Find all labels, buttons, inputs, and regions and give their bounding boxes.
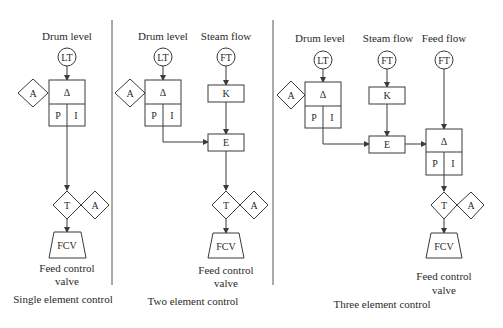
drum-level-label: Drum level [42,30,92,42]
level-controller: Δ P I [305,82,341,128]
proportional-label: P [151,110,157,121]
svg-text:T: T [223,200,229,211]
svg-text:A: A [250,200,258,211]
panel-caption: Two element control [148,295,239,307]
svg-text:LT: LT [157,52,168,63]
level-controller: Δ P I [145,80,181,126]
feed-flow-label: Feed flow [422,32,466,44]
panel-caption: Single element control [13,293,113,305]
svg-text:FT: FT [381,55,393,66]
delta-symbol: Δ [160,87,167,98]
valve-caption-2: valve [432,284,456,296]
valve-caption: Feed control [416,270,471,282]
svg-text:FCV: FCV [216,241,236,252]
proportional-label: P [55,110,61,121]
transfer-auto-diamond: A [457,192,484,219]
delta-symbol: Δ [320,89,327,100]
integral-label: I [330,112,333,123]
svg-text:FT: FT [438,55,450,66]
transfer-diamond: T [53,191,81,219]
steam-flow-label: Steam flow [201,30,251,42]
transfer-auto-diamond: A [81,191,109,219]
feed-control-valve: FCV [426,233,462,258]
drum-level-label: Drum level [138,30,188,42]
transfer-auto-diamond: A [240,191,268,219]
valve-caption-2: valve [55,275,79,287]
feed-flow-transmitter: FT [435,51,453,69]
svg-text:K: K [383,90,391,101]
level-controller: Δ P I [49,80,85,126]
level-transmitter: LT [314,51,332,69]
valve-caption-2: valve [214,277,238,289]
boiler-drum-control-diagram: Drum level LT Δ P I A T A [0,0,503,328]
svg-text:T: T [441,200,447,211]
svg-text:A: A [126,88,134,99]
auto-manual-diamond: A [18,79,48,107]
integral-label: I [74,110,77,121]
proportional-label: P [311,112,317,123]
proportional-label: P [432,158,438,169]
valve-caption: Feed control [39,262,94,274]
svg-text:T: T [64,200,70,211]
delta-symbol: Δ [441,136,448,147]
drum-level-label: Drum level [295,32,345,44]
svg-text:LT: LT [317,55,328,66]
feed-control-valve: FCV [49,232,86,258]
auto-manual-diamond: A [277,81,305,109]
steam-flow-transmitter: FT [217,48,235,66]
auto-manual-diamond: A [115,79,145,107]
svg-text:E: E [223,137,229,148]
svg-text:E: E [384,139,390,150]
panel-two-element: Drum level Steam flow LT Δ P I A FT K [115,30,268,307]
panel-caption: Three element control [333,298,430,310]
panel-single-element: Drum level LT Δ P I A T A [13,30,113,305]
svg-text:LT: LT [61,52,72,63]
summer-block: E [369,136,405,153]
summer-block: E [208,134,244,151]
delta-symbol: Δ [64,87,71,98]
svg-text:K: K [222,88,230,99]
integral-label: I [451,158,454,169]
level-transmitter: LT [154,48,172,66]
gain-block: K [208,85,244,102]
gain-block: K [369,87,405,104]
transfer-diamond: T [431,192,457,219]
svg-text:FCV: FCV [434,241,454,252]
level-transmitter: LT [58,48,76,66]
panel-three-element: Drum level Steam flow Feed flow LT Δ P I… [277,32,484,310]
svg-text:A: A [91,200,99,211]
integral-label: I [170,110,173,121]
svg-text:FCV: FCV [57,240,77,251]
steam-flow-label: Steam flow [363,32,413,44]
svg-text:A: A [287,90,295,101]
svg-text:A: A [29,88,37,99]
feed-control-valve: FCV [208,233,244,258]
svg-text:FT: FT [220,52,232,63]
svg-text:A: A [467,200,475,211]
steam-flow-transmitter: FT [378,51,396,69]
flow-controller: Δ P I [426,129,462,175]
transfer-diamond: T [212,191,240,219]
valve-caption: Feed control [198,264,253,276]
